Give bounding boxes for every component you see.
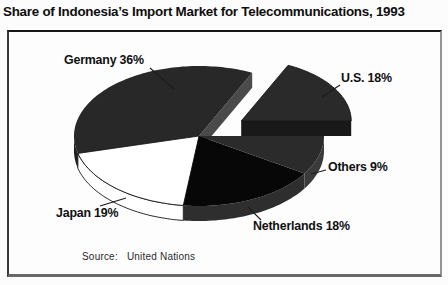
page: Share of Indonesia’s Import Market for T… [0,0,448,285]
slice-radial-wall-us [241,121,351,136]
source-label: Source: [82,251,118,262]
slice-label-netherlands: Netherlands 18% [253,219,350,233]
source-note: Source:United Nations [82,251,195,262]
slice-label-us: U.S. 18% [341,71,392,85]
slice-label-japan: Japan 19% [56,206,118,220]
slice-label-germany: Germany 36% [64,53,144,67]
slice-label-others: Others 9% [328,160,388,174]
pie-3d-chart [0,0,448,285]
slice-top-us [241,65,351,121]
source-value: United Nations [127,251,195,262]
